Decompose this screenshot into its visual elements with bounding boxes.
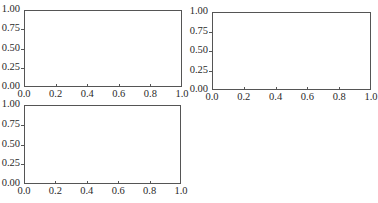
x-tick-label: 0.2: [44, 89, 68, 100]
x-tick-mark: [56, 84, 57, 87]
y-tick-mark: [21, 145, 24, 146]
y-tick-mark: [21, 29, 24, 30]
y-tick-label: 0.75: [0, 119, 20, 130]
x-tick-label: 0.0: [12, 186, 36, 197]
y-tick-label: 0.50: [186, 45, 208, 56]
x-tick-mark: [118, 181, 119, 184]
x-tick-label: 0.6: [107, 89, 131, 100]
x-tick-mark: [55, 181, 56, 184]
y-tick-mark: [21, 164, 24, 165]
y-tick-label: 0.25: [0, 62, 20, 73]
x-tick-label: 0.6: [295, 92, 319, 103]
y-tick-mark: [21, 125, 24, 126]
axes-top-left: [24, 10, 182, 87]
x-tick-label: 1.0: [359, 92, 378, 103]
x-tick-label: 0.4: [75, 89, 99, 100]
x-tick-label: 0.4: [75, 186, 99, 197]
axes-top-right: [212, 12, 371, 90]
y-tick-label: 0.75: [0, 23, 20, 34]
y-tick-mark: [209, 71, 212, 72]
x-tick-label: 0.6: [106, 186, 130, 197]
x-tick-label: 1.0: [169, 186, 193, 197]
x-tick-mark: [87, 84, 88, 87]
y-tick-label: 1.00: [186, 6, 208, 17]
x-tick-mark: [150, 84, 151, 87]
y-tick-label: 0.25: [0, 158, 20, 169]
y-tick-label: 1.00: [0, 99, 20, 110]
y-tick-mark: [21, 49, 24, 50]
x-tick-mark: [276, 87, 277, 90]
x-tick-label: 0.8: [138, 186, 162, 197]
y-tick-label: 0.50: [0, 43, 20, 54]
x-tick-mark: [339, 87, 340, 90]
x-tick-label: 0.2: [43, 186, 67, 197]
x-tick-mark: [119, 84, 120, 87]
y-tick-label: 1.00: [0, 4, 20, 15]
x-tick-mark: [87, 181, 88, 184]
x-tick-label: 0.8: [138, 89, 162, 100]
y-tick-label: 0.25: [186, 65, 208, 76]
y-tick-label: 0.75: [186, 26, 208, 37]
x-tick-label: 0.0: [200, 92, 224, 103]
x-tick-label: 0.8: [327, 92, 351, 103]
x-tick-label: 0.4: [264, 92, 288, 103]
y-tick-mark: [21, 68, 24, 69]
x-tick-mark: [307, 87, 308, 90]
y-tick-mark: [209, 32, 212, 33]
y-tick-mark: [209, 51, 212, 52]
x-tick-mark: [150, 181, 151, 184]
axes-bottom-left: [24, 105, 181, 184]
x-tick-mark: [244, 87, 245, 90]
y-tick-label: 0.50: [0, 139, 20, 150]
x-tick-label: 0.2: [232, 92, 256, 103]
